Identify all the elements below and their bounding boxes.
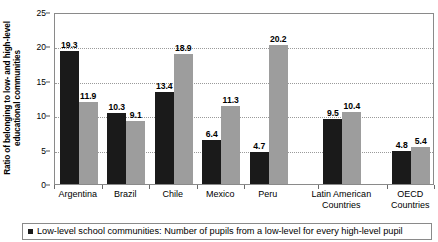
y-tick-label: 15 [37, 77, 46, 87]
y-tick-mark [46, 13, 50, 14]
plot-area: 19.311.910.39.113.418.96.411.34.720.29.5… [54, 13, 434, 185]
bar: 10.4 [342, 112, 361, 184]
x-category-label: Peru [258, 189, 277, 200]
bar-value-label: 20.2 [270, 34, 287, 44]
x-axis-labels: ArgentinaBrazilChileMexicoPeruLatin Amer… [54, 189, 434, 217]
x-category-label: Chile [162, 189, 183, 200]
x-tick-mark [434, 185, 435, 189]
chart-legend: Low-level school communities: Number of … [22, 223, 432, 240]
bar-value-label: 4.7 [253, 141, 265, 151]
bar-value-label: 5.4 [415, 136, 427, 146]
bar-value-label: 11.9 [80, 91, 96, 101]
y-axis-title-line2: educational communities [13, 21, 23, 175]
x-category-label: Latin AmericanCountries [312, 189, 372, 210]
bar: 4.7 [250, 152, 269, 184]
y-tick-label: 20 [37, 42, 46, 52]
bar: 18.9 [174, 54, 193, 184]
bar-value-label: 9.5 [327, 108, 339, 118]
bar-group: 9.510.4 [319, 14, 367, 184]
x-category-label-line: Brazil [114, 189, 137, 199]
bar-group: 19.311.9 [55, 14, 103, 184]
bar-value-label: 19.3 [61, 40, 78, 50]
bar: 19.3 [60, 51, 79, 184]
x-category-label-line: Argentina [58, 189, 97, 199]
y-tick-mark [46, 185, 50, 186]
bar-group: 4.85.4 [388, 14, 436, 184]
bar-group: 4.720.2 [245, 14, 293, 184]
bar: 20.2 [269, 45, 288, 184]
bar-value-label: 9.1 [130, 110, 142, 120]
chart-figure: Ratio of belonging to low- and high-leve… [0, 0, 438, 242]
x-category-label-line: Latin American [312, 189, 372, 199]
bar-value-label: 6.4 [206, 129, 218, 139]
y-axis-title-line1: Ratio of belonging to low- and high-leve… [3, 21, 12, 175]
bar-value-label: 18.9 [175, 43, 192, 53]
y-axis-ticks: 0510152025 [26, 13, 50, 185]
bar: 5.4 [411, 147, 430, 184]
bar: 11.9 [79, 102, 98, 184]
x-category-label-line: Chile [162, 189, 183, 199]
bar-group: 6.411.3 [198, 14, 246, 184]
bar-value-label: 11.3 [223, 95, 239, 105]
y-tick-mark [46, 47, 50, 48]
legend-square-marker [28, 229, 33, 234]
bar: 9.5 [323, 119, 342, 184]
bar-series-container: 19.311.910.39.113.418.96.411.34.720.29.5… [55, 14, 433, 184]
bar-value-label: 13.4 [156, 81, 173, 91]
y-tick-mark [46, 81, 50, 82]
x-category-label-line: Peru [258, 189, 277, 199]
y-tick-label: 25 [37, 8, 46, 18]
x-category-label-line: Countries [391, 200, 430, 211]
bar: 13.4 [155, 92, 174, 184]
bar: 9.1 [126, 121, 145, 184]
bar-value-label: 4.8 [396, 140, 408, 150]
x-category-label-line: OECD [397, 189, 423, 199]
bar: 4.8 [392, 151, 411, 184]
y-tick-label: 10 [37, 111, 46, 121]
bar-group: 13.418.9 [150, 14, 198, 184]
x-category-label: Argentina [58, 189, 97, 200]
bar-value-label: 10.4 [344, 101, 361, 111]
bar-group: 10.39.1 [103, 14, 151, 184]
x-category-label: OECDCountries [391, 189, 430, 210]
bar: 6.4 [202, 140, 221, 184]
y-tick-mark [46, 116, 50, 117]
bar: 10.3 [107, 113, 126, 184]
x-category-label: Mexico [206, 189, 235, 200]
y-axis-title: Ratio of belonging to low- and high-leve… [0, 0, 26, 196]
bar: 11.3 [221, 106, 240, 184]
x-category-label-line: Countries [312, 200, 372, 211]
x-category-label-line: Mexico [206, 189, 235, 199]
legend-label: Low-level school communities: Number of … [37, 226, 403, 237]
bar-value-label: 10.3 [108, 102, 125, 112]
x-category-label: Brazil [114, 189, 137, 200]
y-tick-mark [46, 150, 50, 151]
